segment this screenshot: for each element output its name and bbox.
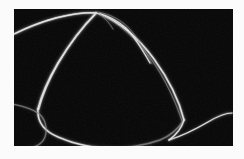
figure-root xyxy=(0,0,244,159)
micrograph-canvas xyxy=(14,9,233,146)
figure-caption xyxy=(0,147,244,159)
film-grain xyxy=(14,9,233,146)
micrograph-plate xyxy=(14,9,233,146)
